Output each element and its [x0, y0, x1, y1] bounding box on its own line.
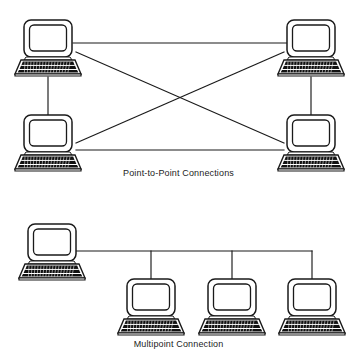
- pp-node-bottom-left[interactable]: [15, 115, 81, 171]
- mp-node-host[interactable]: [19, 224, 85, 280]
- panel-multipoint: [19, 224, 345, 335]
- caption-multipoint: Multipoint Connection: [0, 339, 357, 349]
- panel-point-to-point: [15, 20, 344, 171]
- mp-node-drop-1[interactable]: [118, 279, 184, 335]
- multipoint-links: [73, 251, 312, 281]
- pp-node-top-right[interactable]: [278, 20, 344, 76]
- point-to-point-links: [48, 43, 311, 150]
- diagram-canvas: [0, 0, 357, 362]
- pp-node-bottom-right[interactable]: [278, 115, 344, 171]
- mp-node-drop-3[interactable]: [279, 279, 345, 335]
- mp-node-drop-2[interactable]: [199, 279, 265, 335]
- network-diagram: Point-to-Point Connections Multipoint Co…: [0, 0, 357, 362]
- caption-point-to-point: Point-to-Point Connections: [0, 168, 357, 178]
- pp-node-top-left[interactable]: [15, 20, 81, 76]
